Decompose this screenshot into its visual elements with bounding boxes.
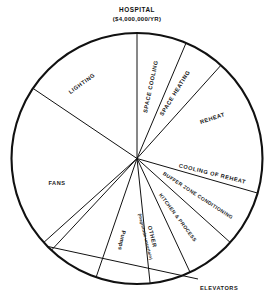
slice-label-elevators: ELEVATORS: [200, 285, 238, 291]
chart-title: HOSPITAL: [119, 6, 155, 13]
slice-label-fans: FANS: [48, 180, 65, 186]
chart-subtitle: ($4,000,000/YR): [113, 16, 162, 22]
pie-chart-figure: HOSPITAL ($4,000,000/YR) SPACE COOLING S…: [0, 0, 273, 301]
